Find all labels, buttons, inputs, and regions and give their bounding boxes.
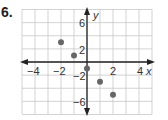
data-point xyxy=(84,66,90,72)
coordinate-plane: y x −4 −2 2 4 6 2 −2 −6 xyxy=(0,0,168,120)
x-axis-label: x xyxy=(145,65,152,77)
data-point xyxy=(110,92,116,98)
data-point xyxy=(97,79,103,85)
y-axis-label: y xyxy=(92,9,100,21)
x-tick-label: −4 xyxy=(27,65,40,77)
y-tick-label: 2 xyxy=(79,44,85,56)
x-tick-label: 2 xyxy=(110,65,116,77)
data-point xyxy=(58,39,64,45)
x-tick-label: −2 xyxy=(53,65,66,77)
x-tick-label: 4 xyxy=(137,65,143,77)
y-tick-label: 6 xyxy=(79,17,85,29)
y-tick-label: −6 xyxy=(73,96,86,108)
data-point xyxy=(71,52,77,58)
y-tick-label: −2 xyxy=(73,70,86,82)
